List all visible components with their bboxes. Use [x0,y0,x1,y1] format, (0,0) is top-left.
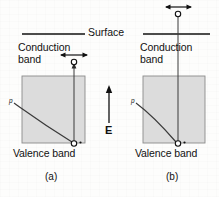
field-arrow-head [106,85,112,93]
electron-marker-panel-a [71,59,76,64]
electron-spread-arrow-right-head-panel-a [83,53,89,58]
valence-band-label-panel-b: Valence band [135,148,197,159]
valence-band-label-panel-a: Valence band [13,148,75,159]
conduction-band-label-line1-panel-a: Conduction [18,42,70,53]
band-gap-region-panel-b [143,76,205,143]
hole-label-panel-a: p [9,97,13,104]
conduction-band-label-line1-panel-b: Conduction [140,42,192,53]
electron-spread-arrow-left-head-panel-b [165,5,171,10]
conduction-band-label-line2-panel-b: band [140,54,163,65]
band-diagram-figure: Surface Conduction band p Valence band (… [0,0,219,197]
conduction-band-label-line2-panel-a: band [18,54,41,65]
panel-caption-a: (a) [45,172,57,183]
hole-marker-panel-b [175,141,180,146]
panel-caption-b: (b) [166,172,178,183]
surface-label: Surface [88,27,124,38]
hole-annotation-dot-panel-b [183,141,185,143]
band-gap-region-panel-a [22,76,85,143]
field-label: E [105,125,112,137]
hole-annotation-dot-panel-a [79,141,81,143]
hole-label-panel-b: p [131,97,135,104]
hole-marker-panel-a [71,141,76,146]
electron-spread-arrow-right-head-panel-b [187,5,193,10]
electron-marker-panel-b [175,11,180,16]
